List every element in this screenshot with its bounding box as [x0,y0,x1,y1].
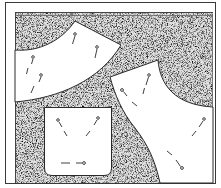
pocket-piece [45,108,112,176]
sewing-pattern-illustration [0,0,221,188]
